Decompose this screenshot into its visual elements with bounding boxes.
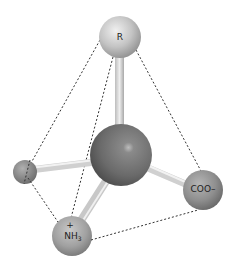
edge-amino-carboxyl [91, 210, 198, 240]
bond-c-carboxyl [148, 168, 190, 186]
atom-alpha-carbon [90, 124, 152, 186]
bond-c-r [115, 55, 124, 127]
bond-c-carboxyl-hl [149, 166, 190, 184]
r-group-label: R [117, 33, 123, 42]
carboxyl-label: COO– [191, 185, 216, 194]
edge-hydrogen-amino [28, 178, 58, 222]
amino-label-subscript: 3 [78, 235, 82, 242]
bond-c-amino [80, 178, 108, 222]
amino-label: NH3 [64, 232, 81, 243]
amino-label-main: NH [64, 231, 78, 241]
amino-charge-label: + [66, 221, 74, 230]
bond-c-amino-hl [82, 178, 110, 222]
edge-r-hydrogen [26, 40, 100, 172]
